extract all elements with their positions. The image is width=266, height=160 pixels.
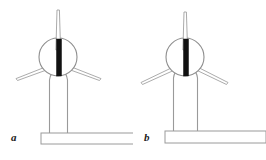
figure-root: a b — [0, 0, 266, 160]
panel-b-drawing — [133, 0, 266, 160]
panel-b-label: b — [144, 132, 150, 143]
foundation-slab — [165, 131, 266, 143]
tower-right-wall — [60, 67, 68, 134]
rotor-blade-bar — [57, 39, 62, 76]
tower-right-wall — [191, 67, 198, 132]
panel-a-label: a — [11, 132, 17, 143]
tower-left-wall — [174, 67, 181, 132]
panel-a-drawing — [0, 0, 133, 160]
tower-left-wall — [50, 67, 58, 134]
panel-a: a — [0, 0, 133, 160]
rotor-blade-bar — [184, 39, 189, 76]
panel-b: b — [133, 0, 266, 160]
foundation-slab — [41, 133, 133, 144]
